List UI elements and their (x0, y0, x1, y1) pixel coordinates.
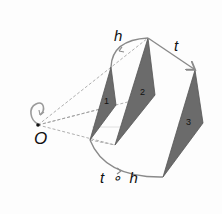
label-center: O (34, 130, 47, 147)
center-point (36, 123, 40, 127)
shape-2 (115, 38, 155, 145)
shape-1-label: 1 (104, 97, 109, 106)
shape-1 (90, 67, 116, 140)
label-homothety: h (114, 28, 122, 43)
translation-arrow (148, 38, 194, 69)
shape-3-label: 3 (186, 118, 191, 127)
shape-2-label: 2 (140, 88, 145, 97)
label-composition: t ∘ h (100, 170, 140, 185)
label-translation: t (174, 38, 178, 53)
shape-3 (163, 70, 203, 177)
diagram-canvas: h t O t ∘ h 1 2 3 (0, 0, 222, 214)
